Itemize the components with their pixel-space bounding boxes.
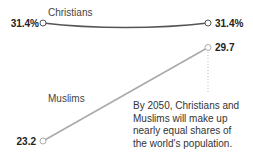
muslims-start-point [40,138,46,144]
christians-line [43,23,208,28]
muslims-series-label: Muslims [48,93,85,104]
muslims-end-point [205,44,211,50]
annotation-line-2: Muslims will make up [133,113,228,124]
annotation-text: By 2050, Christians and Muslims will mak… [133,100,242,149]
annotation-line-1: By 2050, Christians and [133,100,239,111]
muslims-start-value: 23.2 [17,136,37,147]
annotation-line-3: nearly equal shares of [133,125,232,136]
christians-start-point [40,20,46,26]
muslims-end-value: 29.7 [215,42,235,53]
annotation-line-4: the world's population. [133,138,232,149]
christians-series-label: Christians [48,7,92,18]
chart: Christians Muslims 31.4% 31.4% 23.2 29.7… [0,0,253,159]
christians-end-value: 31.4% [215,18,243,29]
christians-start-value: 31.4% [11,18,39,29]
christians-end-point [205,20,211,26]
